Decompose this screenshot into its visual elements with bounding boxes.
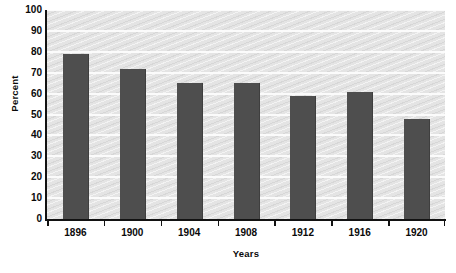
x-tick-label-1916: 1916 bbox=[349, 227, 371, 238]
plot-area bbox=[47, 10, 445, 219]
y-tick-label-10: 10 bbox=[14, 193, 42, 203]
x-tick-label-1904: 1904 bbox=[178, 227, 200, 238]
y-tick-label-40: 40 bbox=[14, 130, 42, 140]
x-axis-tick-5 bbox=[331, 221, 333, 226]
x-axis-tick-4 bbox=[274, 221, 276, 226]
bar-1916 bbox=[347, 92, 373, 219]
y-tick-label-60: 60 bbox=[14, 89, 42, 99]
x-axis-title: Years bbox=[47, 248, 445, 259]
y-tick-label-70: 70 bbox=[14, 68, 42, 78]
y-tick-label-30: 30 bbox=[14, 151, 42, 161]
y-tick-label-20: 20 bbox=[14, 172, 42, 182]
bar-1920 bbox=[404, 119, 430, 219]
x-axis-tick-1 bbox=[104, 221, 106, 226]
y-tick-label-80: 80 bbox=[14, 47, 42, 57]
bar-1912 bbox=[290, 96, 316, 219]
y-tick-label-90: 90 bbox=[14, 26, 42, 36]
x-tick-label-1900: 1900 bbox=[121, 227, 143, 238]
x-tick-label-1908: 1908 bbox=[235, 227, 257, 238]
x-axis-tick-3 bbox=[218, 221, 220, 226]
bar-1900 bbox=[120, 69, 146, 219]
y-tick-label-0: 0 bbox=[14, 214, 42, 224]
x-tick-label-1912: 1912 bbox=[292, 227, 314, 238]
x-tick-label-1920: 1920 bbox=[405, 227, 427, 238]
bars-layer bbox=[47, 10, 445, 219]
bar-1904 bbox=[177, 83, 203, 219]
x-axis-tick-labels: 1896190019041908191219161920 bbox=[47, 227, 445, 243]
y-tick-label-100: 100 bbox=[14, 5, 42, 15]
x-axis-tick-end-1 bbox=[444, 221, 446, 226]
y-tick-label-50: 50 bbox=[14, 110, 42, 120]
x-axis-tick-2 bbox=[161, 221, 163, 226]
bar-1908 bbox=[234, 83, 260, 219]
y-axis-tick-labels: 1009080706050403020100 bbox=[14, 10, 42, 219]
x-axis-tick-end-0 bbox=[47, 221, 49, 226]
bar-chart: Percent 1009080706050403020100 189619001… bbox=[0, 0, 456, 273]
y-axis-line bbox=[45, 10, 47, 221]
bar-1896 bbox=[63, 54, 89, 219]
x-axis-tick-6 bbox=[388, 221, 390, 226]
x-tick-label-1896: 1896 bbox=[64, 227, 86, 238]
